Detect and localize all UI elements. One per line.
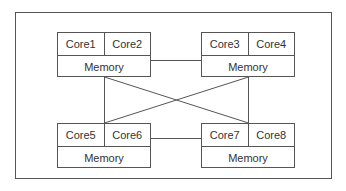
core-1: Core1 (58, 33, 104, 55)
core-3: Core3 (202, 33, 248, 55)
node-3: Core5 Core6 Memory (57, 123, 151, 168)
core-6: Core6 (104, 124, 151, 146)
core-7: Core7 (202, 124, 248, 146)
memory-3: Memory (58, 147, 150, 168)
core-8: Core8 (248, 124, 295, 146)
core-2: Core2 (104, 33, 151, 55)
core-4: Core4 (248, 33, 295, 55)
node-1: Core1 Core2 Memory (57, 32, 151, 77)
core-5: Core5 (58, 124, 104, 146)
node-2: Core3 Core4 Memory (201, 32, 295, 77)
memory-4: Memory (202, 147, 294, 168)
node-4: Core7 Core8 Memory (201, 123, 295, 168)
memory-1: Memory (58, 56, 150, 77)
memory-2: Memory (202, 56, 294, 77)
